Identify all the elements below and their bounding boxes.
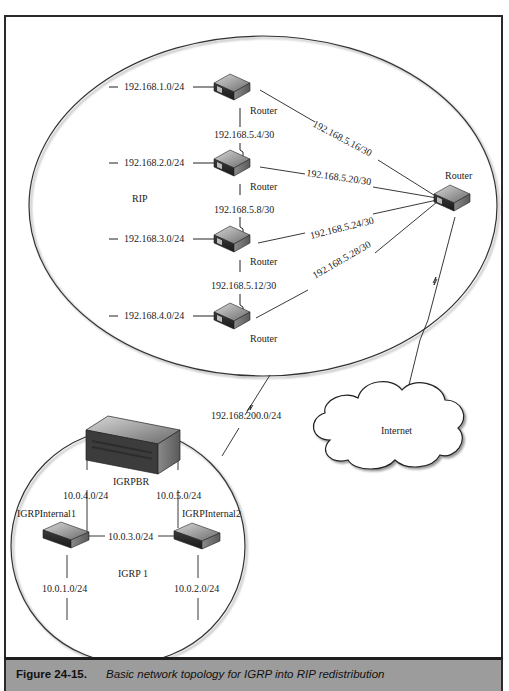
router-2-icon <box>214 150 250 176</box>
figure-caption-bar: Figure 24-15. Basic network topology for… <box>4 657 503 691</box>
igrp-domain-label: IGRP 1 <box>118 568 148 579</box>
vlink-label-3: 192.168.5.12/30 <box>211 280 276 291</box>
hub-link-label-1: 192.168.5.16/30 <box>311 118 374 158</box>
router-4-label: Router <box>250 333 278 344</box>
igrp-internal1-lan-label: 10.0.1.0/24 <box>42 583 87 594</box>
igrp-internal2-label: IGRPInternal2 <box>182 508 241 519</box>
igrp-internal2-icon <box>174 523 220 549</box>
igrp-link-int1-int2-label: 10.0.3.0/24 <box>108 531 153 542</box>
router-1-icon <box>214 74 250 100</box>
hub-link-label-2: 192.168.5.20/30 <box>306 167 372 187</box>
lan-label-2: 192.168.2.0/24 <box>124 157 184 168</box>
vlink-label-2: 192.168.5.8/30 <box>214 204 274 215</box>
internet-label: Internet <box>381 425 412 436</box>
figure-number: Figure 24-15. <box>16 668 87 680</box>
igrp-internal1-icon <box>43 522 89 548</box>
hub-link-label-3: 192.168.5.24/30 <box>309 214 375 240</box>
lan-label-3: 192.168.3.0/24 <box>124 233 184 244</box>
igrp-border-router-label: IGRPBR <box>113 476 149 487</box>
vlink-label-1: 192.168.5.4/30 <box>214 129 274 140</box>
hub-router-label: Router <box>445 170 473 181</box>
figure-caption: Basic network topology for IGRP into RIP… <box>106 668 384 680</box>
rip-domain-label: RIP <box>132 193 148 204</box>
lan-label-1: 192.168.1.0/24 <box>124 81 184 92</box>
hub-link-label-4: 192.168.5.28/30 <box>311 239 373 281</box>
wan-link-label: 192.168.200.0/24 <box>211 410 281 421</box>
router-2-label: Router <box>250 181 278 192</box>
igrp-link-br-int2-label: 10.0.5.0/24 <box>156 490 201 501</box>
hub-router-icon <box>434 185 470 211</box>
igrp-link-br-int1-label: 10.0.4.0/24 <box>63 490 108 501</box>
router-3-label: Router <box>250 256 278 267</box>
igrp-internal2-lan-label: 10.0.2.0/24 <box>174 583 219 594</box>
igrp-internal1-label: IGRPInternal1 <box>17 508 76 519</box>
router-4-icon <box>214 303 250 329</box>
router-1-label: Router <box>250 105 278 116</box>
lan-label-4: 192.168.4.0/24 <box>124 310 184 321</box>
router-3-icon <box>214 226 250 252</box>
network-diagram: 192.168.1.0/24 192.168.2.0/24 192.168.3.… <box>0 0 509 657</box>
igrp-border-router-icon <box>86 416 180 474</box>
